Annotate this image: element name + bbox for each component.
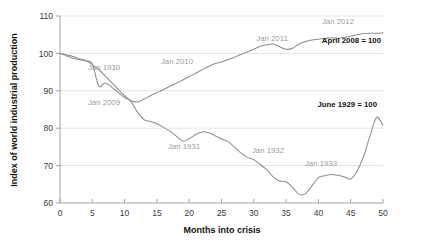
x-tick-label: 15 <box>152 208 162 218</box>
annotation-jan-2010: Jan 2010 <box>161 57 194 66</box>
x-tick-label: 45 <box>346 208 356 218</box>
annotations-group: Jan 1930Jan 2009Jan 2010Jan 2011Jan 2012… <box>88 17 382 168</box>
series-line-1 <box>60 53 383 195</box>
x-tick-label: 25 <box>217 208 227 218</box>
x-tick-label: 30 <box>249 208 259 218</box>
x-tick-label: 40 <box>314 208 324 218</box>
y-axis-title: Index of world industrial production <box>9 33 19 187</box>
x-axis-title: Months into crisis <box>183 225 260 235</box>
annotation-jan-2011: Jan 2011 <box>256 34 288 43</box>
y-tick-label: 110 <box>39 11 53 21</box>
y-tick-label: 70 <box>44 161 54 171</box>
annotation-jan-1932: Jan 1932 <box>252 146 284 155</box>
annotation-june-1929-100: June 1929 = 100 <box>317 100 377 109</box>
annotation-jan-1930: Jan 1930 <box>88 63 121 72</box>
x-tick-label: 20 <box>184 208 194 218</box>
y-tick-label: 100 <box>39 49 53 59</box>
chart-container: 6070809010011005101520253035404550 Jan 1… <box>0 0 423 241</box>
line-chart: 6070809010011005101520253035404550 Jan 1… <box>0 0 423 241</box>
x-tick-label: 5 <box>90 208 95 218</box>
x-tick-label: 0 <box>58 208 63 218</box>
y-tick-label: 80 <box>44 123 54 133</box>
series-group <box>60 33 383 195</box>
x-tick-label: 50 <box>378 208 388 218</box>
annotation-jan-2012: Jan 2012 <box>322 17 354 26</box>
annotation-jan-2009: Jan 2009 <box>88 98 120 107</box>
annotation-april-2008-100: April 2008 = 100 <box>322 36 382 45</box>
y-tick-label: 60 <box>44 198 54 208</box>
y-tick-label: 90 <box>44 86 54 96</box>
x-tick-label: 10 <box>120 208 130 218</box>
x-tick-label: 35 <box>281 208 291 218</box>
annotation-jan-1933: Jan 1933 <box>305 159 337 168</box>
annotation-jan-1931: Jan 1931 <box>168 142 200 151</box>
